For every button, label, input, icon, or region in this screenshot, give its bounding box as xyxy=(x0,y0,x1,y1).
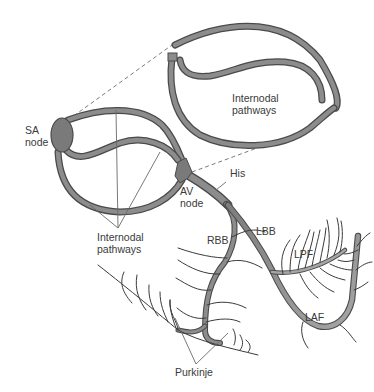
sa-node-label: SA node xyxy=(25,124,48,148)
his-label: His xyxy=(230,167,245,179)
his-leader-line xyxy=(216,182,226,190)
conduction-system-diagram: SA node AV node Internodal pathways Inte… xyxy=(0,0,374,392)
lbb-label: LBB xyxy=(256,225,276,237)
internodal-main-label: Internodal pathways xyxy=(97,231,144,255)
internodal-inset-label: Internodal pathways xyxy=(232,92,279,116)
lpf-label: LPF xyxy=(294,248,313,260)
sa-node-shape xyxy=(51,118,73,152)
laf-label: LAF xyxy=(305,311,324,323)
av-node-label: AV node xyxy=(180,185,203,209)
purkinje-leader-lines xyxy=(175,318,228,364)
purkinje-label: Purkinje xyxy=(175,366,213,378)
atrial-pathways xyxy=(58,110,182,212)
internodal-inset xyxy=(168,26,337,145)
rbb-label: RBB xyxy=(207,234,229,246)
